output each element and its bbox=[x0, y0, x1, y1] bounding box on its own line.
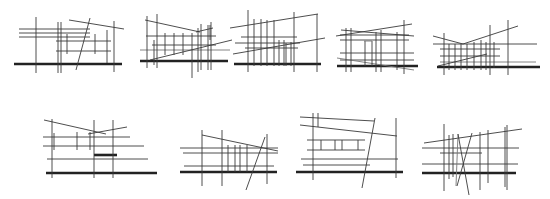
sketch-line bbox=[336, 24, 412, 36]
sketch-line bbox=[362, 118, 375, 188]
sketch-line bbox=[456, 134, 458, 186]
sketch-7 bbox=[180, 130, 278, 190]
sketch-line bbox=[300, 125, 397, 136]
sketch-4 bbox=[336, 20, 418, 74]
sketch-5 bbox=[433, 20, 540, 75]
sketch-line bbox=[433, 36, 463, 44]
sketch-9 bbox=[422, 124, 522, 195]
sketch-2 bbox=[140, 14, 232, 78]
sketch-1 bbox=[14, 17, 124, 73]
sketch-3 bbox=[230, 10, 325, 72]
sketch-6 bbox=[43, 119, 157, 178]
sketch-line bbox=[76, 18, 90, 70]
sketch-grid-diagram bbox=[0, 0, 550, 199]
sketch-line bbox=[300, 117, 374, 121]
sketch-line bbox=[44, 120, 106, 134]
sketch-8 bbox=[296, 113, 403, 188]
sketch-line bbox=[463, 26, 518, 44]
sketch-line bbox=[145, 20, 200, 32]
sketch-line bbox=[69, 20, 124, 29]
